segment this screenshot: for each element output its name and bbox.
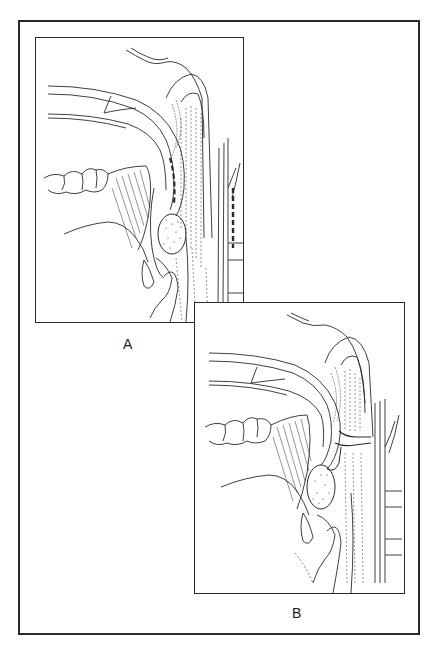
panel-a <box>35 37 244 323</box>
panel-a-illustration <box>36 38 243 322</box>
panel-b <box>194 302 405 594</box>
panel-b-illustration <box>195 303 404 593</box>
panel-label-a: A <box>123 336 132 352</box>
panel-label-b: B <box>292 605 301 621</box>
